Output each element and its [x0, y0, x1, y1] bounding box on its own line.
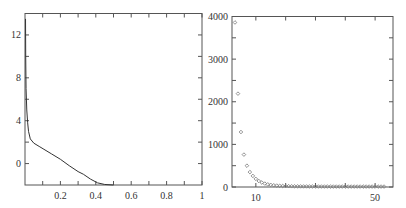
data-point — [233, 21, 237, 25]
y-tick-label: 4000 — [208, 11, 228, 22]
left-series — [26, 19, 114, 185]
y-tick-label: 1000 — [208, 139, 228, 150]
x-tick-label: 10 — [251, 192, 261, 203]
y-tick-label: 4 — [16, 115, 21, 126]
x-tick-label: 0.8 — [160, 190, 173, 201]
right-ticks — [232, 17, 393, 188]
y-tick-label: 0 — [16, 158, 21, 169]
left-ticks — [25, 14, 202, 186]
series-line-curve — [26, 19, 114, 185]
y-tick-label: 2000 — [208, 96, 228, 107]
y-tick-label: 12 — [11, 29, 21, 40]
x-tick-label: 0.6 — [125, 190, 138, 201]
right-plot-frame — [232, 17, 393, 188]
data-point — [242, 153, 246, 157]
x-tick-label: 1 — [200, 190, 205, 201]
data-point — [236, 92, 240, 96]
y-tick-label: 0 — [223, 182, 228, 193]
x-tick-label: 50 — [370, 192, 380, 203]
left-chart: 0.20.40.60.8104812 — [11, 14, 205, 202]
y-tick-label: 8 — [16, 72, 21, 83]
right-tick-labels: 105001000200030004000 — [208, 11, 380, 203]
x-tick-label: 0.4 — [90, 190, 103, 201]
figure: 0.20.40.60.8104812 105001000200030004000 — [0, 0, 406, 208]
data-point — [248, 170, 252, 174]
data-point — [251, 174, 255, 178]
right-chart: 105001000200030004000 — [208, 11, 393, 203]
data-point — [254, 177, 258, 181]
data-point — [239, 130, 243, 134]
left-plot-frame — [25, 14, 202, 186]
data-point — [245, 164, 249, 168]
left-tick-labels: 0.20.40.60.8104812 — [11, 29, 205, 201]
y-tick-label: 3000 — [208, 54, 228, 65]
x-tick-label: 0.2 — [54, 190, 67, 201]
right-series — [233, 21, 386, 189]
